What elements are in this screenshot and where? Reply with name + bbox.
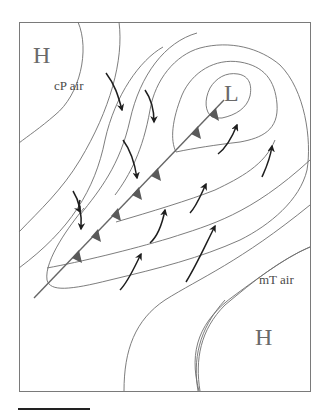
wind-arrow: [120, 254, 141, 290]
low-pressure-label: L: [224, 80, 239, 106]
wind-arrow: [218, 125, 237, 154]
cold-front: [34, 100, 224, 298]
isobar-se-high: [195, 247, 310, 391]
weather-map: H L H cP air mT air: [0, 0, 327, 410]
wind-arrow: [106, 73, 122, 110]
wind-arrows: [73, 73, 272, 290]
front-triangle: [72, 250, 82, 263]
front-triangle: [111, 208, 121, 221]
isobar-warm-1: [116, 140, 275, 222]
front-triangle: [91, 229, 101, 242]
wind-arrow: [145, 90, 154, 122]
isobar-low-outer: [47, 45, 309, 288]
high-pressure-label-nw: H: [33, 42, 50, 68]
cold-air-mass-label: cP air: [54, 78, 84, 93]
isobar-warm-2: [47, 160, 310, 268]
high-pressure-label-se: H: [255, 324, 272, 350]
wind-arrow: [150, 210, 165, 243]
front-triangle: [132, 187, 142, 200]
wind-arrow: [262, 146, 272, 177]
isobar-nw-3: [19, 47, 163, 268]
isobar-se-high-outer: [196, 300, 225, 391]
isobar-warm-4: [198, 247, 310, 391]
isobar-warm-3: [124, 205, 310, 391]
front-triangle: [191, 126, 201, 139]
wind-arrow: [123, 140, 137, 178]
warm-air-mass-label: mT air: [259, 272, 294, 287]
